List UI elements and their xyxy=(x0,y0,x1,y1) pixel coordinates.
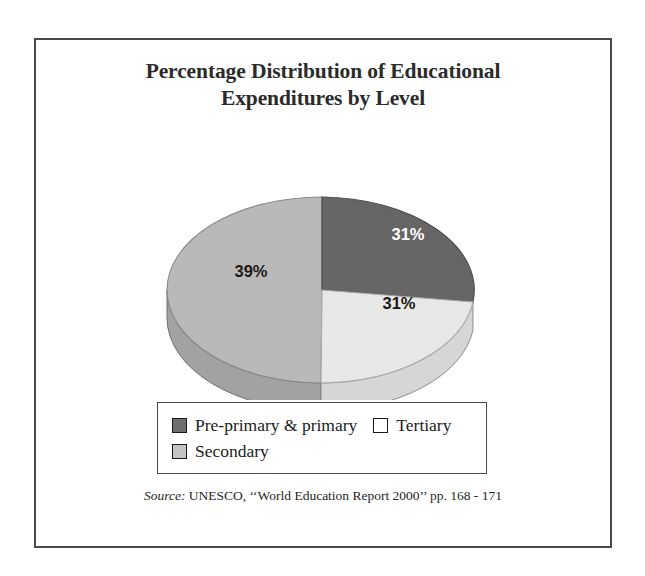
pie-chart: 31% 31% 39% xyxy=(36,120,614,400)
pie-slice-pre-primary[interactable] xyxy=(322,197,474,302)
pie-label-pre-primary: 31% xyxy=(391,225,424,243)
legend-item-pre-primary[interactable]: Pre-primary & primary xyxy=(172,415,357,436)
legend-label-tertiary: Tertiary xyxy=(396,415,451,436)
pie-label-tertiary: 31% xyxy=(382,294,415,312)
pie-chart-svg: 31% 31% 39% xyxy=(36,120,614,400)
chart-title-line-2: Expenditures by Level xyxy=(36,85,610,112)
legend: Pre-primary & primary Tertiary Secondary xyxy=(157,402,487,474)
legend-swatch-pre-primary-icon xyxy=(172,418,187,433)
page-title: Percentage Distribution of Educational E… xyxy=(36,58,610,112)
figure-frame: Percentage Distribution of Educational E… xyxy=(34,38,612,548)
chart-title-line-1: Percentage Distribution of Educational xyxy=(36,58,610,85)
legend-swatch-tertiary-icon xyxy=(373,418,388,433)
legend-swatch-secondary-icon xyxy=(172,444,187,459)
source-note: Source: UNESCO, ‘‘World Education Report… xyxy=(36,488,610,504)
pie-label-secondary: 39% xyxy=(234,262,267,280)
source-text: UNESCO, ‘‘World Education Report 2000’’ … xyxy=(189,488,502,503)
legend-row-2: Secondary xyxy=(172,438,486,464)
source-label: Source: xyxy=(144,488,185,503)
legend-label-secondary: Secondary xyxy=(195,441,269,462)
legend-row-1: Pre-primary & primary Tertiary xyxy=(172,412,486,438)
legend-item-tertiary[interactable]: Tertiary xyxy=(373,415,451,436)
legend-item-secondary[interactable]: Secondary xyxy=(172,441,269,462)
legend-label-pre-primary: Pre-primary & primary xyxy=(195,415,357,436)
